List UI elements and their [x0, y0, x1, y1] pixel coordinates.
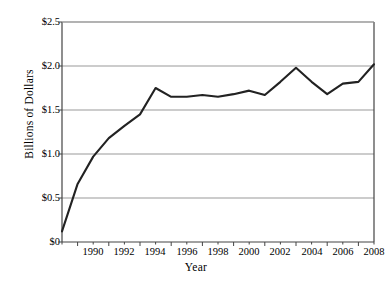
plot-area — [0, 0, 392, 285]
axis-lines — [62, 22, 374, 242]
gridlines — [62, 22, 374, 198]
x-axis-ticks — [58, 22, 374, 246]
data-series-line — [62, 64, 374, 231]
line-chart: Billions of Dollars Year $2.5 $2.0 $1.5 … — [0, 0, 392, 285]
